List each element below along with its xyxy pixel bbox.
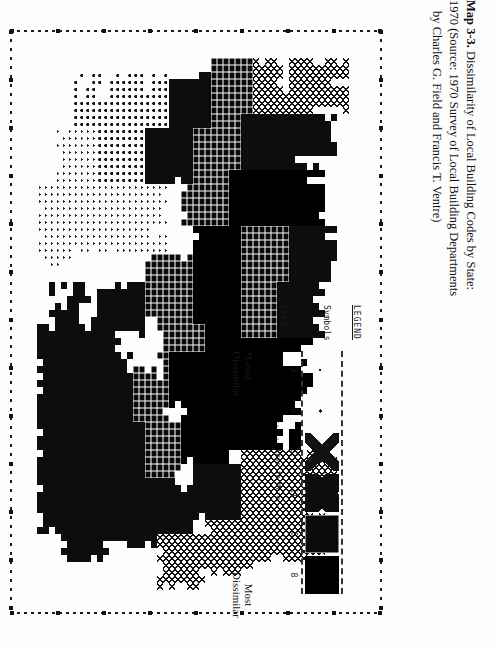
map-cell-class-6 (223, 352, 229, 359)
map-cell-class-6 (265, 170, 271, 177)
map-cell-empty (355, 212, 361, 219)
map-cell-empty (91, 583, 97, 590)
map-cell-empty (367, 310, 373, 317)
map-cell-empty (25, 359, 31, 366)
map-cell-empty (31, 387, 37, 394)
map-cell-empty (25, 485, 31, 492)
map-cell-class-4 (187, 163, 193, 170)
map-cell-empty (361, 324, 367, 331)
map-cell-class-1 (67, 247, 73, 254)
map-cell-class-4 (97, 415, 103, 422)
map-cell-class-4 (157, 499, 163, 506)
map-cell-empty (187, 464, 193, 471)
map-cell-empty (199, 51, 205, 58)
map-cell-class-4 (169, 86, 175, 93)
map-cell-class-3 (229, 527, 235, 534)
map-cell-class-5 (223, 184, 229, 191)
map-cell-class-1 (49, 205, 55, 212)
map-cell-class-6 (223, 226, 229, 233)
map-cell-class-5 (211, 100, 217, 107)
map-cell-empty (325, 198, 331, 205)
map-cell-class-4 (253, 142, 259, 149)
map-cell-empty (109, 541, 115, 548)
map-cell-empty (133, 352, 139, 359)
map-cell-class-5 (217, 107, 223, 114)
map-cell-class-6 (211, 303, 217, 310)
map-cell-class-6 (283, 170, 289, 177)
map-cell-empty (37, 268, 43, 275)
map-cell-class-4 (259, 121, 265, 128)
map-cell-class-1 (115, 226, 121, 233)
map-cell-class-2 (133, 163, 139, 170)
map-cell-class-1 (121, 212, 127, 219)
map-cell-empty (31, 121, 37, 128)
map-cell-empty (43, 114, 49, 121)
map-cell-empty (25, 44, 31, 51)
map-cell-class-6 (199, 240, 205, 247)
map-cell-class-5 (217, 142, 223, 149)
map-cell-empty (367, 345, 373, 352)
map-cell-class-4 (103, 478, 109, 485)
map-cell-empty (139, 268, 145, 275)
map-cell-empty (355, 205, 361, 212)
map-cell-empty (361, 394, 367, 401)
map-cell-empty (49, 72, 55, 79)
map-cell-empty (49, 569, 55, 576)
map-cell-empty (25, 163, 31, 170)
map-cell-empty (145, 79, 151, 86)
map-cell-empty (139, 261, 145, 268)
map-cell-class-5 (163, 331, 169, 338)
map-cell-empty (31, 72, 37, 79)
map-cell-empty (115, 569, 121, 576)
map-cell-class-5 (145, 457, 151, 464)
map-cell-class-4 (145, 149, 151, 156)
map-cell-empty (127, 366, 133, 373)
map-cell-class-1 (49, 261, 55, 268)
map-cell-class-5 (229, 65, 235, 72)
map-cell-empty (175, 590, 181, 597)
map-cell-empty (319, 282, 325, 289)
map-cell-class-4 (37, 352, 43, 359)
map-cell-class-4 (67, 548, 73, 555)
map-cell-class-4 (127, 478, 133, 485)
map-cell-empty (31, 310, 37, 317)
map-cell-class-6 (205, 359, 211, 366)
map-cell-empty (361, 499, 367, 506)
map-cell-class-4 (319, 135, 325, 142)
map-cell-class-4 (43, 457, 49, 464)
map-cell-class-4 (97, 471, 103, 478)
map-cell-class-2 (133, 135, 139, 142)
map-cell-empty (85, 58, 91, 65)
map-cell-empty (217, 590, 223, 597)
map-cell-class-4 (109, 492, 115, 499)
map-cell-empty (343, 275, 349, 282)
map-cell-class-6 (181, 415, 187, 422)
map-cell-class-4 (73, 401, 79, 408)
map-cell-empty (199, 44, 205, 51)
map-cell-class-1 (91, 205, 97, 212)
map-frame-left (10, 30, 12, 614)
map-cell-class-5 (211, 65, 217, 72)
map-cell-class-3 (319, 100, 325, 107)
map-cell-class-4 (169, 163, 175, 170)
map-cell-empty (145, 338, 151, 345)
map-cell-class-5 (151, 261, 157, 268)
map-cell-class-4 (163, 128, 169, 135)
map-cell-empty (295, 51, 301, 58)
map-cell-empty (331, 107, 337, 114)
map-cell-class-3 (331, 100, 337, 107)
map-cell-class-3 (187, 534, 193, 541)
map-cell-class-6 (199, 422, 205, 429)
map-cell-class-5 (163, 303, 169, 310)
map-cell-class-4 (133, 478, 139, 485)
map-cell-empty (367, 569, 373, 576)
map-cell-empty (145, 366, 151, 373)
map-cell-class-1 (67, 233, 73, 240)
frame-tick (379, 126, 383, 130)
map-cell-class-5 (151, 394, 157, 401)
map-cell-class-4 (157, 492, 163, 499)
map-cell-class-5 (229, 135, 235, 142)
map-cell-class-6 (235, 254, 241, 261)
map-cell-class-1 (43, 233, 49, 240)
map-cell-empty (25, 86, 31, 93)
